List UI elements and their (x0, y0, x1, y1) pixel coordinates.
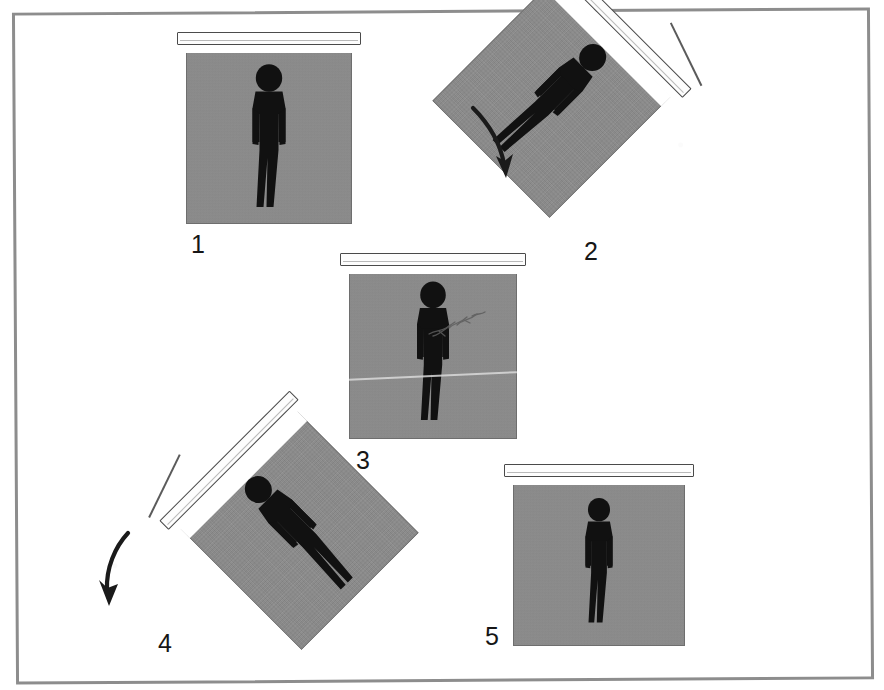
panel-4-caption: 4 (158, 631, 172, 656)
panel-3-assembly (349, 253, 517, 439)
panel-2-caption: 2 (584, 239, 598, 264)
panel-3-scratch-mark (427, 310, 487, 346)
panel-5-poster-gap (513, 477, 685, 485)
figure-canvas: 1 (0, 0, 884, 690)
panel-1-hanging-bar (177, 32, 361, 45)
panel-5-person-icon (571, 494, 627, 632)
panel-1-assembly (186, 32, 352, 224)
panel-1-caption: 1 (191, 232, 205, 257)
panel-5-caption: 5 (485, 624, 499, 649)
panel-5 (513, 464, 685, 646)
panel-3-person-icon (402, 281, 464, 427)
panel-3-hanging-bar (340, 253, 526, 266)
panel-5-assembly (513, 464, 685, 646)
panel-4 (155, 450, 321, 642)
panel-3-poster-gap (349, 266, 517, 274)
panel-2-rotation-arrow-icon (466, 102, 528, 182)
panel-2 (530, 18, 696, 210)
panel-3-caption: 3 (356, 448, 370, 473)
panel-1-person-icon (237, 64, 301, 214)
panel-5-hanging-bar (504, 464, 694, 477)
panel-3 (349, 253, 517, 439)
panel-1 (186, 32, 352, 224)
panel-4-rotation-arrow-icon (96, 528, 152, 610)
panel-1-poster-gap (186, 45, 352, 53)
